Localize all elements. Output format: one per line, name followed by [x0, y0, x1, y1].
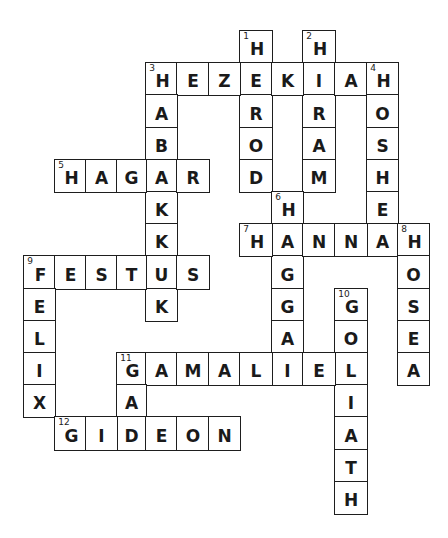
cell-letter: S	[367, 128, 398, 160]
grid-cell[interactable]: O	[176, 416, 210, 451]
grid-cell[interactable]: S	[176, 255, 210, 290]
cell-letter: R	[177, 160, 209, 192]
grid-cell[interactable]: 9F	[23, 255, 56, 290]
grid-cell[interactable]: 7H	[239, 223, 273, 257]
grid-cell[interactable]: I	[334, 384, 368, 418]
grid-cell[interactable]: Z	[208, 62, 241, 96]
grid-cell[interactable]: A	[302, 127, 336, 161]
grid-cell[interactable]: R	[239, 94, 273, 129]
cell-letter: L	[240, 353, 272, 385]
cell-letter: S	[177, 256, 209, 289]
grid-cell[interactable]: L	[23, 320, 56, 354]
cell-letter: E	[146, 417, 177, 450]
grid-cell[interactable]: A	[145, 94, 178, 129]
grid-cell[interactable]: H	[366, 159, 399, 193]
grid-cell[interactable]: T	[334, 449, 368, 483]
grid-cell[interactable]: 5H	[54, 159, 87, 193]
grid-cell[interactable]: L	[334, 352, 368, 386]
cell-letter: S	[398, 289, 429, 321]
grid-cell[interactable]: E	[302, 352, 336, 386]
grid-cell[interactable]: O	[397, 255, 430, 290]
grid-cell[interactable]: T	[116, 255, 147, 290]
grid-cell[interactable]: 6H	[271, 191, 304, 225]
grid-cell[interactable]: A	[208, 352, 241, 386]
grid-cell[interactable]: G	[116, 159, 147, 193]
cell-letter: O	[398, 256, 429, 289]
grid-cell[interactable]: A	[271, 223, 304, 257]
grid-cell[interactable]: K	[145, 223, 178, 257]
grid-cell[interactable]: A	[334, 62, 368, 96]
grid-cell[interactable]: 8H	[397, 223, 430, 257]
grid-cell[interactable]: D	[239, 159, 273, 193]
grid-cell[interactable]: 2H	[302, 30, 336, 64]
grid-cell[interactable]: A	[116, 384, 147, 418]
grid-cell[interactable]: D	[116, 416, 147, 451]
grid-cell[interactable]: E	[239, 62, 273, 96]
grid-cell[interactable]: N	[334, 223, 368, 257]
grid-cell[interactable]: N	[302, 223, 336, 257]
cell-letter: G	[55, 417, 86, 450]
grid-cell[interactable]: H	[334, 481, 368, 515]
grid-cell[interactable]: A	[145, 352, 178, 386]
grid-cell[interactable]: N	[208, 416, 241, 451]
grid-cell[interactable]: 4H	[366, 62, 399, 96]
cell-letter: T	[117, 256, 146, 289]
cell-letter: K	[146, 289, 177, 321]
grid-cell[interactable]: A	[145, 159, 178, 193]
grid-cell[interactable]: 3H	[145, 62, 178, 96]
grid-cell[interactable]: U	[145, 255, 178, 290]
grid-cell[interactable]: R	[302, 94, 336, 129]
grid-cell[interactable]: 10G	[334, 288, 368, 322]
grid-cell[interactable]: S	[397, 288, 430, 322]
grid-cell[interactable]: M	[176, 352, 210, 386]
grid-cell[interactable]: O	[334, 320, 368, 354]
grid-cell[interactable]: I	[85, 416, 118, 451]
grid-cell[interactable]: 1H	[239, 30, 273, 64]
grid-cell[interactable]: 12G	[54, 416, 87, 451]
cell-letter: H	[367, 160, 398, 192]
cell-letter: A	[272, 224, 303, 256]
grid-cell[interactable]: I	[302, 62, 336, 96]
grid-cell[interactable]: 11G	[116, 352, 147, 386]
grid-cell[interactable]: S	[366, 127, 399, 161]
grid-cell[interactable]: K	[271, 62, 304, 96]
grid-cell[interactable]: B	[145, 127, 178, 161]
grid-cell[interactable]: E	[397, 320, 430, 354]
grid-cell[interactable]: A	[334, 416, 368, 451]
cell-letter: D	[117, 417, 146, 450]
cell-letter: O	[335, 321, 367, 353]
grid-cell[interactable]: I	[271, 352, 304, 386]
grid-cell[interactable]: E	[366, 191, 399, 225]
cell-letter: G	[335, 289, 367, 321]
cell-letter: L	[335, 353, 367, 385]
grid-cell[interactable]: L	[239, 352, 273, 386]
grid-cell[interactable]: X	[23, 384, 56, 418]
grid-cell[interactable]: K	[145, 191, 178, 225]
grid-cell[interactable]: G	[271, 288, 304, 322]
grid-cell[interactable]: A	[85, 159, 118, 193]
cell-letter: A	[117, 385, 146, 417]
grid-cell[interactable]: K	[145, 288, 178, 322]
grid-cell[interactable]: M	[302, 159, 336, 193]
grid-cell[interactable]: O	[239, 127, 273, 161]
grid-cell[interactable]: E	[23, 288, 56, 322]
cell-letter: R	[303, 95, 335, 128]
grid-cell[interactable]: R	[176, 159, 210, 193]
grid-cell[interactable]: E	[54, 255, 87, 290]
grid-cell[interactable]: E	[176, 62, 210, 96]
grid-cell[interactable]: A	[271, 320, 304, 354]
grid-cell[interactable]: I	[23, 352, 56, 386]
grid-cell[interactable]: O	[366, 94, 399, 129]
cell-letter: K	[272, 63, 303, 95]
cell-letter: H	[240, 224, 272, 256]
cell-letter: O	[177, 417, 209, 450]
cell-letter: H	[146, 63, 177, 95]
cell-letter: G	[117, 353, 146, 385]
grid-cell[interactable]: S	[85, 255, 118, 290]
cell-letter: E	[55, 256, 86, 289]
grid-cell[interactable]: A	[366, 223, 399, 257]
grid-cell[interactable]: E	[145, 416, 178, 451]
grid-cell[interactable]: G	[271, 255, 304, 290]
cell-letter: E	[240, 63, 272, 95]
grid-cell[interactable]: A	[397, 352, 430, 386]
